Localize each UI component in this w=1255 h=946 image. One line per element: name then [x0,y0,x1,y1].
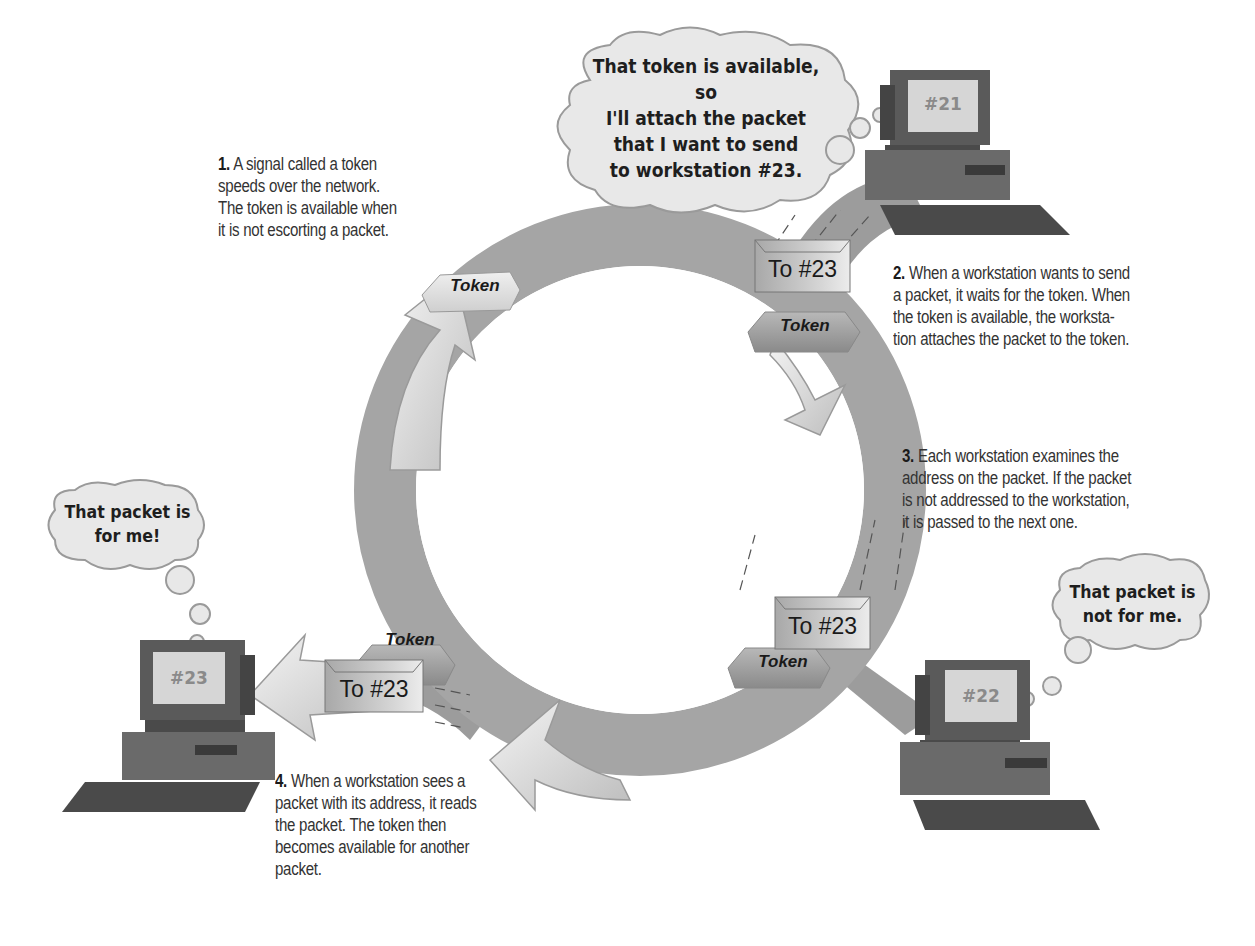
screen-label-ws21: #21 [908,94,978,114]
bubble-text-ws22: That packet is not for me. [1060,580,1205,628]
thought-bubble-ws22 [1020,554,1209,706]
envelope-label-ws22: To #23 [775,613,870,640]
step-2-text: 2. When a workstation wants to send a pa… [893,262,1130,350]
screen-label-ws23: #23 [153,668,225,688]
bubble-text-ws21: That token is available, so I'll attach … [583,54,829,184]
step-3-text: 3. Each workstation examines the address… [902,445,1131,533]
bubble-text-ws23: That packet is for me! [55,500,200,548]
screen-label-ws22: #22 [945,686,1017,706]
token-label-ws21: Token [760,316,850,336]
step-1-text: 1. A signal called a token speeds over t… [218,153,397,241]
step-4-text: 4. When a workstation sees a packet with… [275,770,476,880]
envelope-label-ws23: To #23 [325,676,423,703]
envelope-label-ws21: To #23 [755,256,850,283]
token-label-free: Token [430,276,520,296]
token-label-ws23: Token [365,630,455,650]
token-label-ws22: Token [738,652,828,672]
workstation-23 [62,640,275,812]
